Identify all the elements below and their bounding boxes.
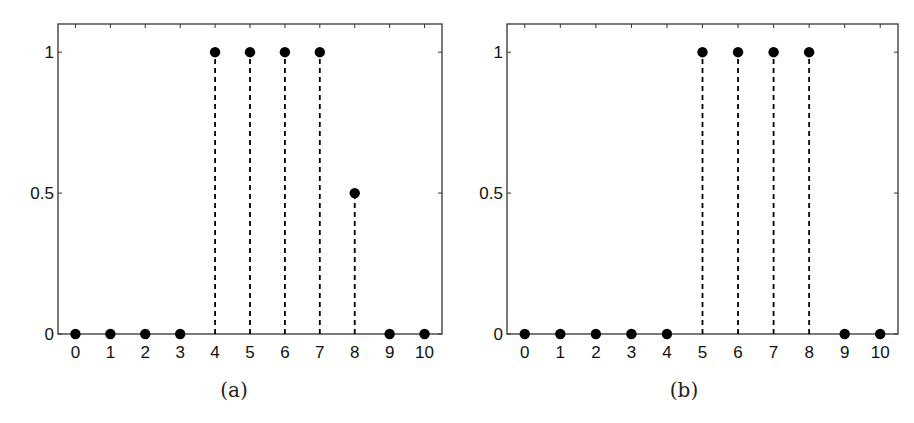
x-tick-label: 2 bbox=[591, 343, 600, 362]
data-point-marker bbox=[839, 329, 849, 339]
chart-panel-b: 01234567891000.51 (b) bbox=[451, 0, 908, 423]
stem-plot-b: 01234567891000.51 bbox=[451, 0, 914, 423]
data-point-marker bbox=[419, 329, 429, 339]
y-tick-label: 1 bbox=[494, 43, 503, 62]
y-tick-label: 0 bbox=[494, 325, 503, 344]
y-tick-label: 0 bbox=[45, 325, 54, 344]
data-point-marker bbox=[70, 329, 80, 339]
x-tick-label: 0 bbox=[520, 343, 529, 362]
y-tick-label: 0.5 bbox=[479, 184, 503, 203]
x-tick-label: 4 bbox=[210, 343, 219, 362]
y-tick-label: 1 bbox=[45, 43, 54, 62]
x-tick-label: 1 bbox=[106, 343, 115, 362]
x-tick-label: 10 bbox=[415, 343, 434, 362]
stem-plot-a: 01234567891000.51 bbox=[0, 0, 457, 423]
data-point-marker bbox=[210, 47, 220, 57]
data-point-marker bbox=[733, 47, 743, 57]
x-tick-label: 5 bbox=[245, 343, 254, 362]
x-tick-label: 5 bbox=[698, 343, 707, 362]
x-tick-label: 8 bbox=[804, 343, 813, 362]
x-tick-label: 1 bbox=[556, 343, 565, 362]
data-point-marker bbox=[520, 329, 530, 339]
data-point-marker bbox=[384, 329, 394, 339]
data-point-marker bbox=[555, 329, 565, 339]
data-point-marker bbox=[245, 47, 255, 57]
x-tick-label: 0 bbox=[71, 343, 80, 362]
data-point-marker bbox=[626, 329, 636, 339]
y-tick-label: 0.5 bbox=[30, 184, 54, 203]
x-tick-label: 4 bbox=[662, 343, 671, 362]
data-point-marker bbox=[140, 329, 150, 339]
data-point-marker bbox=[591, 329, 601, 339]
x-tick-label: 9 bbox=[385, 343, 394, 362]
data-point-marker bbox=[280, 47, 290, 57]
x-tick-label: 7 bbox=[315, 343, 324, 362]
x-tick-label: 6 bbox=[733, 343, 742, 362]
x-tick-label: 3 bbox=[175, 343, 184, 362]
x-tick-label: 6 bbox=[280, 343, 289, 362]
x-tick-label: 8 bbox=[350, 343, 359, 362]
x-tick-label: 9 bbox=[840, 343, 849, 362]
data-point-marker bbox=[804, 47, 814, 57]
x-tick-label: 10 bbox=[871, 343, 890, 362]
caption-b: (b) bbox=[654, 378, 714, 402]
data-point-marker bbox=[315, 47, 325, 57]
chart-panel-a: 01234567891000.51 (a) bbox=[0, 0, 457, 423]
caption-a: (a) bbox=[204, 378, 264, 402]
data-point-marker bbox=[662, 329, 672, 339]
x-tick-label: 7 bbox=[769, 343, 778, 362]
x-tick-label: 2 bbox=[141, 343, 150, 362]
data-point-marker bbox=[175, 329, 185, 339]
x-tick-label: 3 bbox=[627, 343, 636, 362]
data-point-marker bbox=[768, 47, 778, 57]
data-point-marker bbox=[697, 47, 707, 57]
data-point-marker bbox=[875, 329, 885, 339]
data-point-marker bbox=[350, 188, 360, 198]
data-point-marker bbox=[105, 329, 115, 339]
